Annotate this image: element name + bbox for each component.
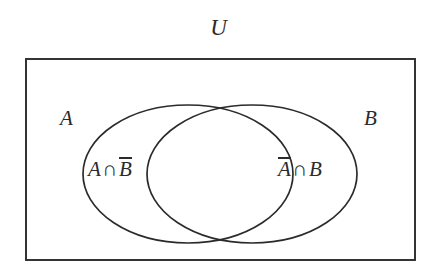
universe-label: U	[0, 16, 437, 39]
venn-diagram-canvas	[0, 0, 437, 279]
region-label-not-a-intersect-b: A∩B	[278, 158, 322, 180]
region-a-term-b-negated: B	[119, 158, 132, 180]
set-b-ellipse	[147, 105, 357, 243]
region-b-term-b: B	[309, 157, 322, 181]
intersection-operator-icon: ∩	[101, 157, 119, 181]
set-a-label: A	[60, 108, 73, 129]
set-b-label: B	[364, 108, 377, 129]
region-a-term-a: A	[88, 157, 101, 181]
venn-diagram-figure: U A B A∩B A∩B	[0, 0, 437, 279]
universe-rectangle	[26, 59, 415, 260]
region-b-term-a-negated: A	[278, 158, 291, 180]
region-label-a-intersect-not-b: A∩B	[88, 158, 132, 180]
intersection-operator-icon: ∩	[291, 157, 309, 181]
